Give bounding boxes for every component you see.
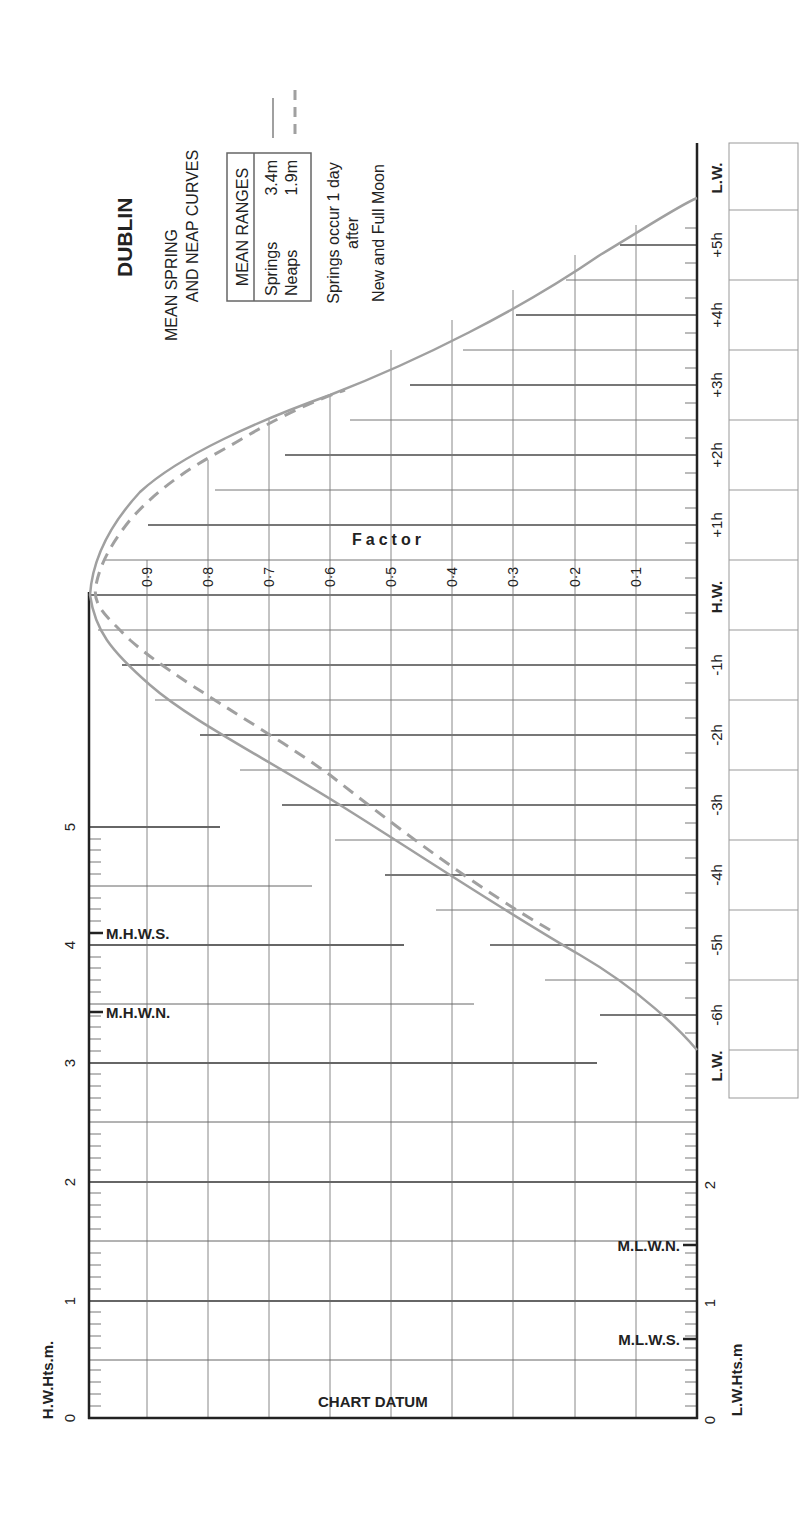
svg-text:5: 5	[61, 823, 78, 831]
svg-text:0: 0	[61, 1414, 78, 1422]
note-line1: Springs occur 1 day	[325, 162, 342, 303]
svg-text:M.H.W.N.: M.H.W.N.	[106, 1004, 170, 1021]
neaps-value: 1.9m	[283, 160, 300, 196]
svg-text:0·5: 0·5	[383, 567, 399, 587]
svg-text:+4h: +4h	[708, 302, 725, 327]
svg-text:0·2: 0·2	[567, 567, 583, 587]
factor-gridlines	[147, 225, 636, 1418]
hour-boxes	[729, 143, 798, 1098]
svg-text:+1h: +1h	[708, 512, 725, 537]
svg-text:0·6: 0·6	[322, 567, 338, 587]
springs-label: Springs	[263, 242, 280, 296]
svg-text:-4h: -4h	[708, 864, 725, 886]
svg-text:2: 2	[61, 1178, 78, 1186]
svg-text:-1h: -1h	[708, 654, 725, 676]
svg-text:0·8: 0·8	[200, 567, 216, 587]
svg-text:+3h: +3h	[708, 372, 725, 397]
title: DUBLIN	[113, 198, 136, 277]
svg-text:-2h: -2h	[708, 724, 725, 746]
time-labels: L.W. +5h +4h +3h +2h +1h H.W. -1h -2h -3…	[708, 163, 725, 1082]
svg-text:M.L.W.S.: M.L.W.S.	[618, 1331, 680, 1348]
svg-text:0·3: 0·3	[505, 567, 521, 587]
svg-text:-6h: -6h	[708, 1004, 725, 1026]
svg-text:1: 1	[701, 1299, 718, 1307]
svg-text:L.W.: L.W.	[708, 1051, 725, 1082]
tidal-curve-diagram: DUBLIN MEAN SPRING AND NEAP CURVES MEAN …	[0, 0, 810, 1533]
height-lines	[89, 827, 697, 1360]
neaps-label: Neaps	[283, 250, 300, 296]
hour-lines	[89, 245, 697, 1015]
svg-text:H.W.Hts.m.: H.W.Hts.m.	[39, 1341, 56, 1419]
subtitle-line1: MEAN SPRING	[163, 229, 180, 341]
svg-text:-3h: -3h	[708, 794, 725, 816]
chart-datum-label: CHART DATUM	[318, 1393, 428, 1410]
svg-text:3: 3	[61, 1059, 78, 1067]
spring-curve	[90, 198, 697, 1050]
svg-text:+5h: +5h	[708, 232, 725, 257]
svg-text:+2h: +2h	[708, 442, 725, 467]
svg-text:L.W.: L.W.	[708, 163, 725, 194]
svg-text:2: 2	[701, 1181, 718, 1189]
lw-axis-labels: 0 1 2 L.W.Hts.m M.L.W.N. M.L.W.S.	[618, 1181, 746, 1424]
ranges-header: MEAN RANGES	[234, 168, 251, 286]
svg-text:0·9: 0·9	[139, 567, 155, 587]
svg-text:0·1: 0·1	[628, 567, 644, 587]
svg-text:M.L.W.N.: M.L.W.N.	[618, 1237, 681, 1254]
svg-text:L.W.Hts.m: L.W.Hts.m	[728, 1344, 745, 1417]
svg-text:0·7: 0·7	[261, 567, 277, 587]
springs-value: 3.4m	[263, 160, 280, 196]
right-axis-ticks	[685, 228, 697, 1406]
svg-text:-5h: -5h	[708, 934, 725, 956]
svg-text:H.W.: H.W.	[708, 581, 725, 614]
svg-text:0: 0	[701, 1416, 718, 1424]
svg-text:4: 4	[61, 941, 78, 949]
note-line2: after	[344, 216, 361, 249]
subtitle-line2: AND NEAP CURVES	[184, 150, 201, 302]
factor-label: Factor	[352, 531, 425, 548]
svg-text:1: 1	[61, 1297, 78, 1305]
factor-tick-labels: 0·9 0·8 0·7 0·6 0·5 0·4 0·3 0·2 0·1	[139, 567, 644, 587]
neap-curve	[95, 390, 550, 930]
svg-text:M.H.W.S.: M.H.W.S.	[106, 925, 169, 942]
note-line3: New and Full Moon	[370, 164, 387, 302]
svg-text:0·4: 0·4	[444, 567, 460, 587]
